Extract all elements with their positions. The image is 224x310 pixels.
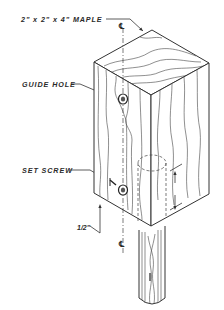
half-inch-dimension: 1/2" xyxy=(77,224,91,231)
set-screw-label: SET SCREW xyxy=(22,166,73,175)
dowel xyxy=(139,226,165,304)
guide-hole-label: GUIDE HOLE xyxy=(22,80,76,89)
centerline-bottom-symbol: ℄ xyxy=(118,240,125,249)
material-leader xyxy=(106,19,143,31)
centerline-top-symbol: ℄ xyxy=(118,22,125,31)
guide-hole-icon xyxy=(119,94,128,104)
arrowhead-icon xyxy=(98,204,101,208)
diagram-canvas: 2" x 2" x 4" MAPLE GUIDE HOLE SET SCREW … xyxy=(0,0,224,310)
half-inch-leader xyxy=(90,208,100,233)
material-label: 2" x 2" x 4" MAPLE xyxy=(20,15,103,24)
